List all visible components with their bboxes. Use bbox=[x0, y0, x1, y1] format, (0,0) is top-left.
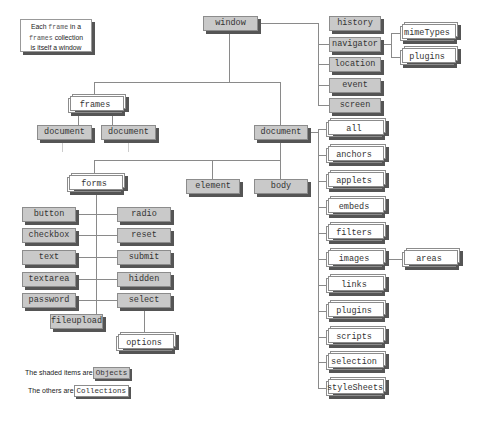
connector bbox=[96, 192, 97, 314]
connector bbox=[385, 259, 402, 260]
connector bbox=[318, 285, 326, 286]
connector bbox=[391, 33, 392, 57]
connector bbox=[76, 214, 117, 215]
node-options: options bbox=[116, 336, 172, 351]
node-frames: frames bbox=[68, 98, 122, 113]
node-hidden: hidden bbox=[117, 272, 171, 287]
node-stylesheets: styleSheets bbox=[326, 381, 382, 396]
connector bbox=[229, 30, 230, 82]
node-forms: forms bbox=[67, 177, 121, 192]
node-filters: filters bbox=[326, 226, 382, 241]
node-history: history bbox=[329, 16, 381, 31]
connector bbox=[318, 181, 326, 182]
note-code: frames bbox=[29, 35, 53, 42]
note-text: is itself a window bbox=[21, 43, 91, 53]
object-model-diagram: Each frame in a frames collection is its… bbox=[0, 0, 482, 423]
connector bbox=[318, 64, 329, 65]
connector bbox=[318, 44, 329, 45]
legend-collections: The others areCollections bbox=[28, 385, 129, 397]
connector bbox=[318, 105, 329, 106]
connector bbox=[318, 129, 326, 130]
node-window: window bbox=[203, 16, 258, 31]
connector bbox=[318, 311, 326, 312]
connector bbox=[128, 140, 129, 152]
connector bbox=[318, 233, 326, 234]
connector bbox=[308, 132, 318, 133]
connector bbox=[280, 82, 281, 125]
node-button: button bbox=[22, 207, 76, 222]
node-links: links bbox=[326, 278, 382, 293]
node-submit: submit bbox=[117, 250, 171, 265]
node-screen: screen bbox=[329, 98, 381, 113]
node-scripts: scripts bbox=[326, 330, 382, 345]
node-navigator-plugins: plugins bbox=[400, 50, 454, 65]
node-frame-document-1: document bbox=[37, 125, 92, 140]
connector bbox=[318, 388, 326, 389]
connector bbox=[318, 259, 326, 260]
node-all: all bbox=[326, 122, 382, 137]
connector bbox=[391, 33, 400, 34]
note-text: collection bbox=[53, 34, 83, 41]
node-applets: applets bbox=[326, 174, 382, 189]
node-selection: selection bbox=[326, 355, 382, 370]
node-areas: areas bbox=[402, 252, 456, 267]
connector bbox=[280, 140, 281, 179]
node-embeds: embeds bbox=[326, 200, 382, 215]
note-text: Each bbox=[31, 23, 48, 30]
node-text: text bbox=[22, 250, 76, 265]
node-textarea: textarea bbox=[22, 272, 76, 287]
connector bbox=[318, 207, 326, 208]
connector bbox=[76, 257, 117, 258]
connector bbox=[76, 300, 117, 301]
node-checkbox: checkbox bbox=[22, 228, 76, 243]
connector bbox=[76, 235, 117, 236]
node-reset: reset bbox=[117, 228, 171, 243]
connector bbox=[112, 112, 113, 125]
node-event: event bbox=[329, 78, 381, 93]
node-mimetypes: mimeTypes bbox=[400, 26, 454, 41]
legend-objects: The shaded items areObjects bbox=[25, 367, 130, 379]
node-frame-document-2: document bbox=[101, 125, 156, 140]
connector bbox=[212, 160, 213, 179]
node-plugins: plugins bbox=[326, 304, 382, 319]
connector bbox=[94, 160, 280, 161]
node-location: location bbox=[329, 57, 381, 72]
connector bbox=[391, 57, 400, 58]
frame-note: Each frame in a frames collection is its… bbox=[20, 19, 92, 52]
node-anchors: anchors bbox=[326, 148, 382, 163]
node-navigator: navigator bbox=[329, 37, 381, 52]
node-fileupload: fileupload bbox=[50, 314, 103, 329]
connector bbox=[383, 44, 391, 45]
connector bbox=[258, 23, 318, 24]
node-password: password bbox=[22, 293, 76, 308]
connector bbox=[76, 279, 117, 280]
node-document: document bbox=[254, 125, 308, 140]
node-element: element bbox=[186, 179, 240, 194]
legend-collection-chip: Collections bbox=[74, 385, 130, 397]
node-images: images bbox=[326, 252, 382, 267]
node-radio: radio bbox=[117, 207, 171, 222]
legend-text: The others are bbox=[28, 387, 74, 394]
connector bbox=[318, 155, 326, 156]
note-text: in a bbox=[68, 23, 81, 30]
legend-text: The shaded items are bbox=[25, 369, 93, 376]
connector bbox=[62, 140, 63, 152]
connector bbox=[318, 85, 329, 86]
note-code: frame bbox=[48, 24, 68, 31]
connector bbox=[94, 82, 280, 83]
node-body: body bbox=[254, 179, 308, 194]
legend-object-chip: Objects bbox=[93, 367, 131, 379]
node-select: select bbox=[117, 293, 171, 308]
connector bbox=[318, 337, 326, 338]
connector bbox=[318, 362, 326, 363]
connector bbox=[78, 112, 79, 125]
